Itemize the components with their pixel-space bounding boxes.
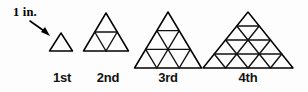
triangle-pattern-figure: 1 in. 1st 2nd 3rd 4th [0, 0, 308, 92]
figure-label-3rd: 3rd [158, 70, 178, 85]
pattern-diagram-svg [0, 0, 308, 92]
figure-label-2nd: 2nd [97, 70, 120, 85]
unit-length-label: 1 in. [13, 5, 37, 20]
figure-1st-triangle [50, 33, 73, 51]
figure-3rd-triangle [135, 12, 202, 68]
measure-callout-arrow [30, 21, 50, 36]
figure-label-1st: 1st [53, 70, 71, 85]
figure-2nd-triangle [84, 13, 129, 51]
figure-label-4th: 4th [239, 70, 258, 85]
figure-4th-triangle [203, 12, 293, 68]
